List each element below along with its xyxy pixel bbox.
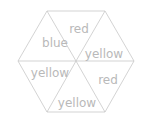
hexagon-diagram: blue red yellow red yellow yellow: [0, 0, 151, 122]
sector-label-lower-right: red: [98, 73, 118, 87]
sector-label-upper: red: [69, 22, 89, 36]
sector-label-lower: yellow: [58, 96, 96, 110]
sector-label-lower-left: yellow: [31, 66, 69, 80]
sector-label-upper-left: blue: [42, 36, 68, 50]
sector-label-upper-right: yellow: [85, 47, 123, 61]
